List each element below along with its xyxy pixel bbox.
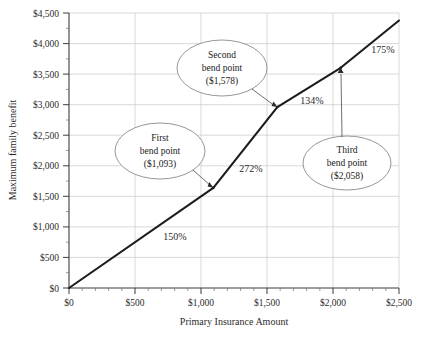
- callout-second-line-1: Second: [208, 50, 236, 60]
- x-tick-label-2000: $2,000: [320, 298, 346, 308]
- bend-point-marker-1: [212, 186, 215, 189]
- callout-first-line-3: ($1,093): [144, 159, 176, 170]
- callout-third-line-2: bend point: [327, 158, 368, 168]
- callout-first-leader-line: [193, 170, 211, 186]
- bend-point-marker-3: [339, 66, 342, 69]
- callout-first-line-1: First: [151, 133, 169, 143]
- bend-point-marker-2: [276, 106, 279, 109]
- x-axis-major-ticks: [69, 288, 399, 294]
- callout-first-line-2: bend point: [140, 146, 181, 156]
- x-tick-label-1000: $1,000: [188, 298, 214, 308]
- callout-third-line-3: ($2,058): [331, 171, 363, 182]
- y-axis-tick-labels: $4,500 $4,000 $3,500 $3,000 $2,500 $2,00…: [33, 9, 59, 294]
- segment-label-272: 272%: [239, 163, 262, 174]
- y-tick-label-2000: $2,000: [33, 161, 59, 171]
- y-tick-label-1000: $1,000: [33, 222, 59, 232]
- x-tick-label-2500: $2,500: [386, 298, 412, 308]
- x-tick-label-500: $500: [126, 298, 145, 308]
- callout-third-leader-line: [341, 74, 342, 137]
- y-axis-title: Maximum family benefit: [7, 100, 18, 201]
- callout-first-bend-point[interactable]: First bend point ($1,093): [115, 123, 213, 188]
- y-tick-label-500: $500: [40, 253, 59, 263]
- callout-third-bend-point[interactable]: Third bend point ($2,058): [303, 68, 391, 190]
- x-tick-label-1500: $1,500: [254, 298, 280, 308]
- callout-second-bend-point[interactable]: Second bend point ($1,578): [177, 40, 277, 107]
- y-tick-label-2500: $2,500: [33, 131, 59, 141]
- segment-label-150: 150%: [163, 231, 186, 242]
- y-tick-label-3000: $3,000: [33, 100, 59, 110]
- x-axis-tick-labels: $0 $500 $1,000 $1,500 $2,000 $2,500: [64, 298, 412, 308]
- callout-second-line-2: bend point: [202, 63, 243, 73]
- y-tick-label-4500: $4,500: [33, 9, 59, 19]
- y-tick-label-4000: $4,000: [33, 39, 59, 49]
- x-axis-title: Primary Insurance Amount: [180, 316, 289, 327]
- x-tick-label-0: $0: [64, 298, 74, 308]
- y-tick-label-0: $0: [50, 284, 60, 294]
- segment-label-175: 175%: [371, 44, 394, 55]
- callout-second-leader-line: [252, 89, 275, 106]
- family-benefit-line-chart: $4,500 $4,000 $3,500 $3,000 $2,500 $2,00…: [0, 0, 432, 337]
- y-tick-label-3500: $3,500: [33, 70, 59, 80]
- callout-second-line-3: ($1,578): [206, 76, 238, 87]
- y-tick-label-1500: $1,500: [33, 192, 59, 202]
- segment-label-134: 134%: [300, 95, 323, 106]
- chart-container: $4,500 $4,000 $3,500 $3,000 $2,500 $2,00…: [0, 0, 432, 337]
- callout-third-line-1: Third: [336, 145, 357, 155]
